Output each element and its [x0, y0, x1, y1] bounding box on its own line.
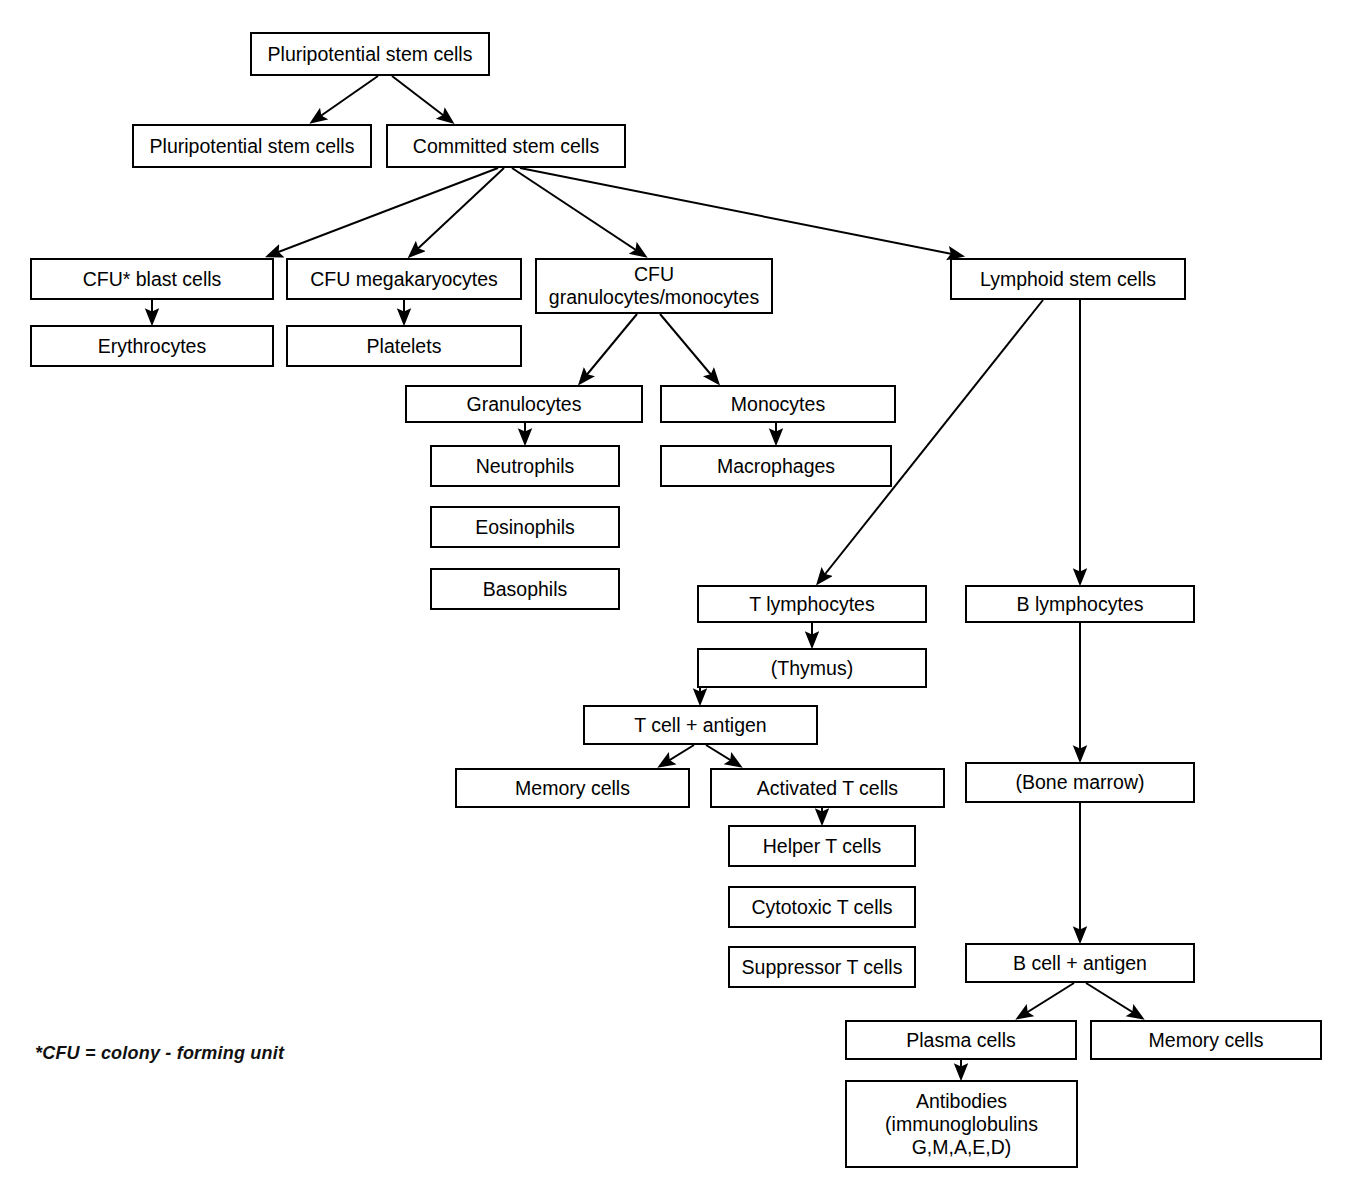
node-label: (Bone marrow)	[1016, 771, 1145, 794]
edge-cfu_gran_mono-to-monocytes	[660, 314, 718, 383]
node-label: Basophils	[483, 578, 568, 601]
node-label: Plasma cells	[906, 1029, 1015, 1052]
node-helper_t_cells: Helper T cells	[728, 825, 916, 867]
node-platelets: Platelets	[286, 325, 522, 367]
node-basophils: Basophils	[430, 568, 620, 610]
node-label: B cell + antigen	[1013, 952, 1147, 975]
node-neutrophils: Neutrophils	[430, 445, 620, 487]
node-label: Memory cells	[1149, 1029, 1264, 1052]
node-label: Antibodies (immunoglobulins G,M,A,E,D)	[885, 1090, 1038, 1159]
node-label: B lymphocytes	[1017, 593, 1144, 616]
node-t_cell_antigen: T cell + antigen	[583, 705, 818, 745]
node-b_lymphocytes: B lymphocytes	[965, 585, 1195, 623]
node-label: Platelets	[367, 335, 442, 358]
node-label: (Thymus)	[771, 657, 853, 680]
node-label: CFU granulocytes/monocytes	[549, 263, 759, 309]
node-label: Pluripotential stem cells	[268, 43, 473, 66]
node-label: CFU megakaryocytes	[310, 268, 497, 291]
node-label: T cell + antigen	[634, 714, 766, 737]
edge-committed-to-cfu_megakaryocytes	[410, 168, 504, 256]
hematopoiesis-flowchart: Pluripotential stem cellsPluripotential …	[0, 0, 1355, 1193]
node-activated_t_cells: Activated T cells	[710, 768, 945, 808]
node-label: Helper T cells	[763, 835, 882, 858]
node-granulocytes: Granulocytes	[405, 385, 643, 423]
node-pluripotential_top: Pluripotential stem cells	[250, 32, 490, 76]
node-label: Activated T cells	[757, 777, 898, 800]
node-label: Committed stem cells	[413, 135, 599, 158]
node-committed: Committed stem cells	[386, 124, 626, 168]
node-erythrocytes: Erythrocytes	[30, 325, 274, 367]
node-label: Macrophages	[717, 455, 835, 478]
node-label: Neutrophils	[476, 455, 575, 478]
node-monocytes: Monocytes	[660, 385, 896, 423]
node-cytotoxic_t_cells: Cytotoxic T cells	[728, 886, 916, 928]
node-label: Monocytes	[731, 393, 825, 416]
footnote-cfu-legend: *CFU = colony - forming unit	[35, 1043, 284, 1064]
node-plasma_cells: Plasma cells	[845, 1020, 1077, 1060]
node-label: Granulocytes	[467, 393, 582, 416]
node-memory_cells_t: Memory cells	[455, 768, 690, 808]
edge-committed-to-lymphoid_stem	[520, 168, 962, 256]
node-antibodies: Antibodies (immunoglobulins G,M,A,E,D)	[845, 1080, 1078, 1168]
edge-pluripotential_top-to-pluripotential_left	[312, 76, 378, 122]
edges-group	[152, 76, 1142, 1078]
node-suppressor_t_cells: Suppressor T cells	[728, 946, 916, 988]
edge-committed-to-cfu_gran_mono	[512, 168, 645, 256]
node-macrophages: Macrophages	[660, 445, 892, 487]
node-label: Pluripotential stem cells	[150, 135, 355, 158]
node-label: Suppressor T cells	[742, 956, 903, 979]
node-b_cell_antigen: B cell + antigen	[965, 943, 1195, 983]
edge-cfu_gran_mono-to-granulocytes	[580, 314, 637, 383]
node-label: T lymphocytes	[749, 593, 874, 616]
node-cfu_megakaryocytes: CFU megakaryocytes	[286, 258, 522, 300]
edge-t_cell_antigen-to-memory_cells_t	[660, 745, 694, 766]
node-label: Memory cells	[515, 777, 630, 800]
node-memory_cells_b: Memory cells	[1090, 1020, 1322, 1060]
edge-b_cell_antigen-to-memory_cells_b	[1086, 983, 1142, 1018]
edge-committed-to-cfu_blast	[268, 168, 498, 256]
edge-t_cell_antigen-to-activated_t_cells	[706, 745, 740, 766]
node-eosinophils: Eosinophils	[430, 506, 620, 548]
node-cfu_blast: CFU* blast cells	[30, 258, 274, 300]
node-cfu_gran_mono: CFU granulocytes/monocytes	[535, 258, 773, 314]
node-label: Eosinophils	[475, 516, 575, 539]
node-lymphoid_stem: Lymphoid stem cells	[950, 258, 1186, 300]
edge-pluripotential_top-to-committed	[392, 76, 452, 122]
node-label: Lymphoid stem cells	[980, 268, 1156, 291]
node-label: CFU* blast cells	[83, 268, 222, 291]
node-bone_marrow: (Bone marrow)	[965, 762, 1195, 803]
edge-b_cell_antigen-to-plasma_cells	[1018, 983, 1074, 1018]
node-label: Erythrocytes	[98, 335, 206, 358]
node-t_lymphocytes: T lymphocytes	[697, 585, 927, 623]
edge-lymphoid_stem-to-t_lymphocytes	[818, 300, 1043, 583]
node-pluripotential_left: Pluripotential stem cells	[132, 124, 372, 168]
node-thymus: (Thymus)	[697, 648, 927, 688]
node-label: Cytotoxic T cells	[751, 896, 892, 919]
